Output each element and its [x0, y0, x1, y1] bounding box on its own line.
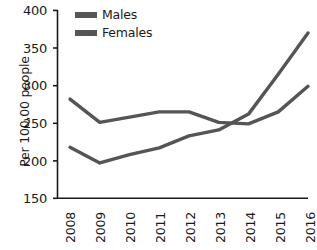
x-tick-label-2008: 2008 [63, 212, 78, 243]
x-tick-label-2012: 2012 [183, 212, 198, 243]
x-tick-label-2016: 2016 [303, 212, 317, 243]
x-tick-label-2014: 2014 [243, 212, 258, 243]
series-line-females [70, 33, 308, 163]
line-chart: 400 350 300 250 200 150 Per 100,00 peopl… [0, 0, 317, 250]
series-line-males [70, 86, 308, 124]
x-tick-label-2013: 2013 [213, 212, 228, 243]
x-tick-label-2015: 2015 [273, 212, 288, 243]
legend-swatch-males-icon [75, 12, 97, 18]
legend-item-females: Females [75, 27, 152, 40]
legend-label-males: Males [102, 9, 137, 22]
y-axis-label: Per 100,00 people [17, 47, 32, 177]
x-tick-label-2011: 2011 [153, 212, 168, 243]
x-tick-label-2010: 2010 [123, 212, 138, 243]
y-tick-label-400: 400 [5, 3, 47, 18]
legend-label-females: Females [102, 27, 152, 40]
legend-item-males: Males [75, 9, 137, 22]
legend-swatch-females-icon [75, 30, 97, 36]
x-tick-label-2009: 2009 [93, 212, 108, 243]
y-tick-label-150: 150 [5, 191, 47, 206]
